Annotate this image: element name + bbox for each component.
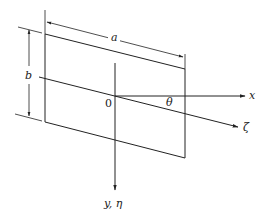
extension-line-b-top [18, 27, 42, 33]
label-theta: θ [166, 96, 173, 109]
label-b: b [25, 69, 32, 82]
label-x: x [249, 89, 256, 102]
zeta-axis [45, 79, 238, 128]
label-a: a [111, 31, 118, 44]
zeta-axis-left [39, 77, 45, 79]
plate-diagram: a b y, η x ζ 0 θ [0, 0, 264, 216]
label-zeta: ζ [243, 121, 250, 134]
extension-line-b-bottom [15, 114, 42, 121]
label-y-eta: y, η [103, 197, 123, 210]
label-origin: 0 [105, 97, 112, 110]
